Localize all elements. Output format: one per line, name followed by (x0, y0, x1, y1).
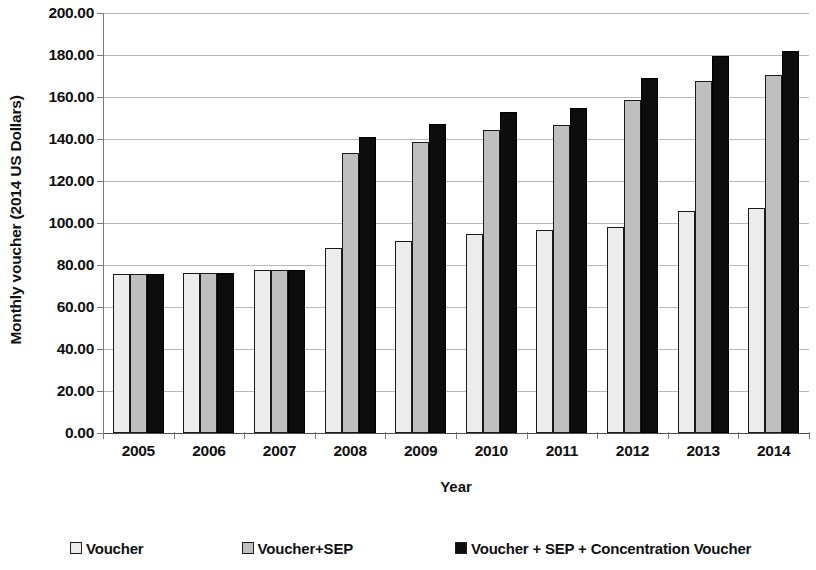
x-tick-mark (668, 432, 669, 439)
x-tick-label: 2008 (333, 442, 366, 460)
bar-group (325, 13, 376, 433)
bar (765, 75, 782, 433)
y-tick-label: 0.00 (22, 424, 94, 442)
x-tick-mark (809, 432, 810, 439)
plot-area (103, 13, 809, 433)
bar (395, 241, 412, 433)
bar (500, 112, 517, 433)
y-tick-label: 20.00 (22, 382, 94, 400)
bar (113, 274, 130, 433)
bar-group (466, 13, 517, 433)
bar (483, 130, 500, 433)
legend-label: Voucher (86, 540, 144, 557)
bar (712, 56, 729, 433)
x-tick-mark (315, 432, 316, 439)
bar (359, 137, 376, 433)
legend-swatch-icon (242, 542, 254, 554)
x-tick-mark (527, 432, 528, 439)
y-tick-label: 180.00 (22, 46, 94, 64)
x-tick-mark (244, 432, 245, 439)
x-tick-mark (103, 432, 104, 439)
x-tick-label: 2005 (122, 442, 155, 460)
bar (200, 273, 217, 433)
legend-swatch-icon (455, 542, 467, 554)
x-tick-mark (456, 432, 457, 439)
bar (412, 142, 429, 433)
x-tick-label: 2013 (686, 442, 719, 460)
bar (217, 273, 234, 433)
x-tick-mark (385, 432, 386, 439)
y-tick-label: 140.00 (22, 130, 94, 148)
y-tick-label: 200.00 (22, 4, 94, 22)
bar (342, 153, 359, 433)
bar (254, 270, 271, 433)
bars-layer (103, 13, 809, 433)
x-tick-label: 2007 (263, 442, 296, 460)
bar-group (183, 13, 234, 433)
x-tick-label: 2006 (192, 442, 225, 460)
bar-group (748, 13, 799, 433)
bar (466, 234, 483, 434)
legend-label: Voucher+SEP (258, 540, 353, 557)
x-axis-title: Year (103, 478, 809, 495)
bar (147, 274, 164, 433)
bar (748, 208, 765, 433)
legend-swatch-icon (70, 542, 82, 554)
bar-group (254, 13, 305, 433)
bar-group (678, 13, 729, 433)
bar (641, 78, 658, 433)
bar (183, 273, 200, 433)
bar (325, 248, 342, 433)
x-tick-mark (174, 432, 175, 439)
x-tick-label: 2012 (616, 442, 649, 460)
bar (288, 270, 305, 433)
x-tick-mark (597, 432, 598, 439)
bar (553, 125, 570, 433)
x-tick-label: 2014 (757, 442, 790, 460)
bar (429, 124, 446, 433)
bar-group (536, 13, 587, 433)
x-tick-label: 2009 (404, 442, 437, 460)
legend-label: Voucher + SEP + Concentration Voucher (471, 540, 751, 557)
bar-chart: Monthly voucher (2014 US Dollars) 0.0020… (0, 0, 816, 570)
x-tick-label: 2011 (546, 442, 578, 460)
bar (130, 274, 147, 433)
bar-group (395, 13, 446, 433)
bar (678, 211, 695, 433)
chart-legend: VoucherVoucher+SEPVoucher + SEP + Concen… (60, 534, 816, 562)
bar (607, 227, 624, 433)
bar (624, 100, 641, 433)
bar (782, 51, 799, 433)
y-tick-label: 120.00 (22, 172, 94, 190)
x-tick-mark (738, 432, 739, 439)
legend-item: Voucher+SEP (242, 540, 353, 557)
y-tick-label: 40.00 (22, 340, 94, 358)
y-axis-tick-labels: 0.0020.0040.0060.0080.00100.00120.00140.… (26, 0, 98, 440)
y-tick-label: 60.00 (22, 298, 94, 316)
bar (695, 81, 712, 433)
y-tick-label: 100.00 (22, 214, 94, 232)
bar (536, 230, 553, 433)
legend-item: Voucher + SEP + Concentration Voucher (455, 540, 751, 557)
bar-group (607, 13, 658, 433)
bar (570, 108, 587, 434)
y-tick-label: 80.00 (22, 256, 94, 274)
x-tick-label: 2010 (475, 442, 508, 460)
bar-group (113, 13, 164, 433)
legend-item: Voucher (70, 540, 144, 557)
x-axis-tick-labels: 2005200620072008200920102011201220132014 (103, 442, 809, 468)
bar (271, 270, 288, 433)
y-tick-label: 160.00 (22, 88, 94, 106)
